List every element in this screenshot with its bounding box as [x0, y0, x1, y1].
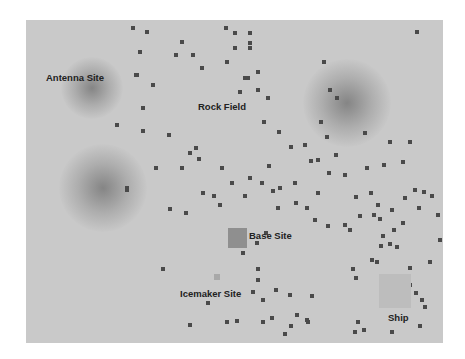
rock [260, 181, 264, 185]
rock [309, 159, 313, 163]
rock [390, 208, 394, 212]
rock [243, 76, 247, 80]
rock [354, 195, 358, 199]
rock [328, 88, 332, 92]
rock [358, 214, 362, 218]
rock [295, 313, 299, 317]
rock [256, 267, 260, 271]
rock [415, 30, 419, 34]
rock [168, 207, 172, 211]
ship-site[interactable] [379, 274, 411, 308]
rock [376, 203, 380, 207]
rock [243, 194, 247, 198]
rock [392, 228, 396, 232]
rock [277, 130, 281, 134]
rock [375, 260, 379, 264]
rock [218, 203, 222, 207]
rock [256, 278, 260, 282]
rock [335, 96, 339, 100]
rock [248, 46, 252, 50]
east-glow [303, 59, 391, 147]
rock [401, 221, 405, 225]
rock [256, 70, 260, 74]
rock [274, 288, 278, 292]
label-icemaker-site[interactable]: Icemaker Site [180, 288, 241, 299]
rock [248, 41, 252, 45]
rock [191, 53, 195, 57]
rock [294, 201, 298, 205]
rock [220, 166, 224, 170]
rock [316, 158, 320, 162]
rock [201, 191, 205, 195]
rock [370, 258, 374, 262]
rock [303, 143, 307, 147]
rock [255, 241, 259, 245]
rock [319, 120, 323, 124]
label-antenna-site[interactable]: Antenna Site [46, 72, 104, 83]
rock [305, 318, 309, 322]
rock [115, 123, 119, 127]
rock [174, 53, 178, 57]
mission-map[interactable]: Antenna Site Rock Field Base Site Icemak… [26, 20, 443, 343]
rock [388, 242, 392, 246]
rock [289, 145, 293, 149]
rock [379, 244, 383, 248]
rock [200, 66, 204, 70]
rock [262, 120, 266, 124]
rock [180, 40, 184, 44]
rock [125, 188, 129, 192]
rock [188, 323, 192, 327]
label-rock-field[interactable]: Rock Field [198, 101, 246, 112]
rock [365, 166, 369, 170]
rock [225, 60, 229, 64]
rock [325, 135, 329, 139]
rock [180, 166, 184, 170]
rock [413, 188, 417, 192]
rock [248, 176, 252, 180]
rock [151, 83, 155, 87]
rock [430, 194, 434, 198]
southwest-glow [59, 144, 147, 232]
rock [310, 294, 314, 298]
rock [356, 320, 360, 324]
rock [251, 290, 255, 294]
rock [261, 320, 265, 324]
icemaker-site[interactable] [214, 274, 220, 280]
rock [135, 73, 139, 77]
rock [261, 298, 265, 302]
rock [141, 129, 145, 133]
rock [423, 305, 427, 309]
rock [241, 251, 245, 255]
rock [417, 206, 421, 210]
rock [418, 324, 422, 328]
rock [161, 267, 165, 271]
rock [278, 186, 282, 190]
rock [224, 26, 228, 30]
rock [233, 46, 237, 50]
rock [362, 328, 366, 332]
rock [293, 181, 297, 185]
rock [188, 151, 192, 155]
label-ship[interactable]: Ship [388, 312, 409, 323]
rock [403, 196, 407, 200]
label-base-site[interactable]: Base Site [249, 230, 292, 241]
rock [378, 217, 382, 221]
rock [194, 146, 198, 150]
rock [141, 106, 145, 110]
rock [436, 213, 440, 217]
rock [354, 276, 358, 280]
rock [235, 319, 239, 323]
rock [233, 31, 237, 35]
rock [420, 298, 424, 302]
rock [212, 194, 216, 198]
rock [288, 293, 292, 297]
rock [138, 50, 142, 54]
rock [353, 330, 357, 334]
rock [266, 96, 270, 100]
rock [390, 330, 394, 334]
rock [225, 320, 229, 324]
rock [316, 191, 320, 195]
rock [326, 224, 330, 228]
antenna-glow [61, 57, 123, 119]
base-site[interactable] [228, 228, 247, 248]
